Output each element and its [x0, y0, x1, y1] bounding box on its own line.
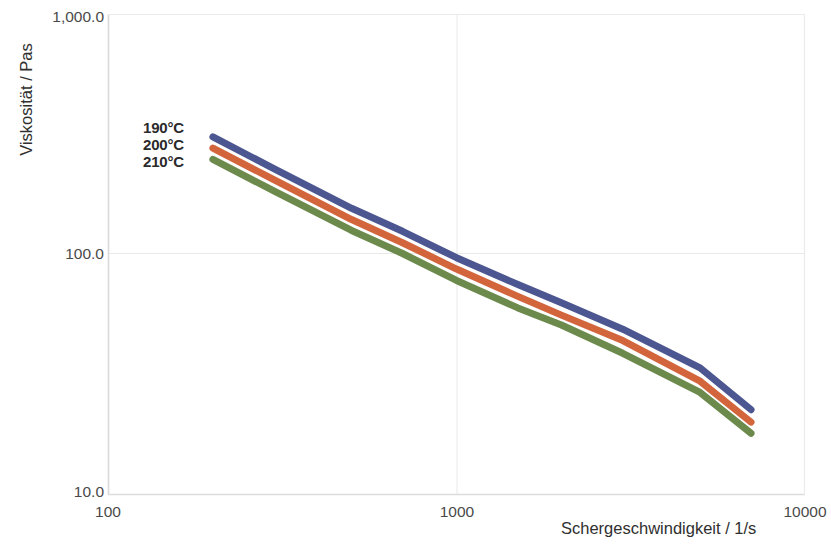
plot-canvas	[0, 0, 831, 545]
data-series-group	[213, 137, 751, 433]
viscosity-shear-rate-chart: Viskosität / Pas Schergeschwindigkeit / …	[0, 0, 831, 545]
series-line-210-c	[213, 159, 751, 433]
